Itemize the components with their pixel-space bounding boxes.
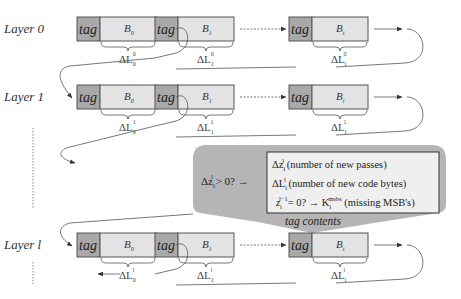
brace — [313, 42, 367, 51]
tag-field-new-passes: Δzil (number of new passes) — [272, 157, 387, 172]
layer-row-2: Layer ltagB0ΔL0ltagB1ΔL1ltagBiΔLil — [3, 233, 423, 285]
layer-label: Layer 1 — [3, 89, 44, 104]
delta-length-label: ΔL10 — [197, 51, 214, 67]
brace — [313, 110, 367, 119]
tag-label: tag — [291, 22, 309, 37]
tag-label: tag — [157, 238, 175, 253]
code-block: tagBiΔLil — [289, 233, 368, 283]
tag-contents-callout: Δzil > 0? → Δzil (number of new passes) … — [193, 145, 446, 233]
code-block: tagBiΔLi0 — [289, 17, 368, 67]
delta-length-label: ΔLil — [331, 267, 347, 283]
delta-length-label: ΔL0l — [119, 267, 136, 283]
tag-label: tag — [157, 22, 175, 37]
layer-row-1: Layer 1tagB0ΔL01tagB1ΔL11tagBiΔLi1 — [3, 85, 423, 137]
delta-length-label: ΔLi1 — [331, 119, 347, 135]
brace — [101, 42, 155, 51]
code-block: tagBiΔLi1 — [289, 85, 368, 135]
tag-label: tag — [291, 238, 309, 253]
tag-field-new-code-bytes: ΔLil (number of new code bytes) — [272, 176, 407, 191]
delta-length-label: ΔLi0 — [331, 51, 347, 67]
tag-label: tag — [157, 90, 175, 105]
layer-diagram: Δzil > 0? → Δzil (number of new passes) … — [0, 0, 461, 299]
code-block: tagB0ΔL00 — [77, 17, 156, 67]
layer-row-0: Layer 0tagB0ΔL00tagB1ΔL10tagBiΔLi0 — [3, 17, 423, 69]
code-block: tagB1ΔL10 — [155, 17, 234, 67]
brace — [101, 110, 155, 119]
delta-length-label: ΔL11 — [197, 119, 214, 135]
layer-label: Layer 0 — [3, 21, 45, 36]
code-block: tagB1ΔL11 — [155, 85, 234, 135]
delta-length-label: ΔL00 — [119, 51, 136, 67]
brace — [313, 258, 367, 267]
layer-label: Layer l — [3, 237, 42, 252]
tag-contents-caption: tag contents — [285, 215, 341, 228]
code-block: tagB0ΔL0l — [77, 233, 156, 283]
tag-field-missing-msbs: zil−1= 0? → Kimsbs (missing MSB's) — [275, 195, 415, 210]
code-block: tagB1ΔL1l — [155, 233, 234, 283]
code-block: tagB0ΔL01 — [77, 85, 156, 135]
tag-label: tag — [79, 90, 97, 105]
tag-label: tag — [79, 22, 97, 37]
tag-label: tag — [291, 90, 309, 105]
delta-length-label: ΔL1l — [197, 267, 214, 283]
brace — [101, 258, 155, 267]
tag-label: tag — [79, 238, 97, 253]
